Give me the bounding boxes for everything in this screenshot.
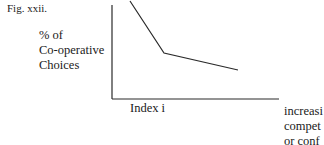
data-line — [130, 1, 238, 70]
x-axis-annotation: increasi compet or conf — [284, 104, 323, 145]
chart-plot — [0, 0, 324, 145]
annotation-line2: compet — [284, 119, 323, 134]
annotation-line3: or conf — [284, 134, 323, 145]
annotation-line1: increasi — [284, 104, 323, 119]
x-axis-label: Index i — [130, 101, 165, 116]
